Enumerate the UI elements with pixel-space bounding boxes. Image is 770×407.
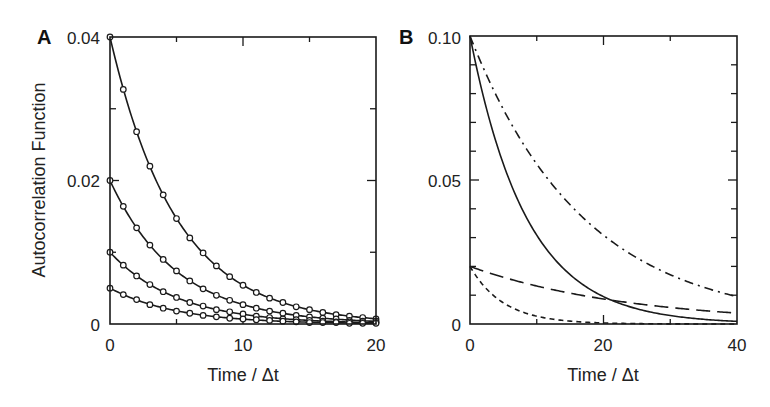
panel-b-ytick-zero: 0 [452, 316, 461, 335]
data-point-marker [214, 293, 220, 299]
data-point-marker [160, 257, 166, 263]
data-point-marker [200, 303, 206, 309]
data-point-marker [293, 304, 299, 310]
panel-b-letter: B [399, 26, 413, 48]
series-line-a0-0-02 [110, 181, 376, 322]
data-point-marker [187, 310, 193, 316]
data-point-marker [174, 295, 180, 301]
panel-a-frame [110, 37, 376, 324]
data-point-marker [187, 235, 193, 241]
data-point-marker [174, 308, 180, 314]
data-point-marker [147, 242, 153, 248]
data-point-marker [174, 268, 180, 274]
data-point-marker [160, 289, 166, 295]
series-line-solid [470, 36, 737, 321]
data-point-marker [227, 298, 233, 304]
panel-b-ytick-mid: 0.05 [428, 172, 461, 191]
panel-b-ytick-top: 0.10 [428, 29, 461, 48]
data-point-marker [280, 318, 286, 324]
data-point-marker [200, 286, 206, 292]
data-point-marker [240, 302, 246, 308]
data-point-marker [147, 282, 153, 288]
panel-b-xtick-40: 40 [728, 336, 747, 355]
panel-a-curves [107, 34, 379, 326]
data-point-marker [147, 302, 153, 308]
data-point-marker [227, 309, 233, 315]
y-axis-label: Autocorrelation Function [29, 82, 49, 277]
figure: A 0.04 0.02 0 0 10 20 Time / Δt Autocorr… [0, 0, 770, 407]
data-point-marker [307, 307, 313, 313]
data-point-marker [200, 313, 206, 319]
data-point-marker [121, 87, 127, 93]
data-point-marker [134, 297, 140, 303]
panel-a-xtick-10: 10 [234, 336, 253, 355]
panel-a: A 0.04 0.02 0 0 10 20 Time / Δt Autocorr… [29, 26, 385, 385]
data-point-marker [253, 290, 259, 296]
data-point-marker [227, 274, 233, 280]
panel-a-xtick-0: 0 [105, 336, 114, 355]
panel-a-ytick-top: 0.04 [67, 29, 100, 48]
series-line-a0-0-04 [110, 37, 376, 319]
data-point-marker [320, 310, 326, 316]
data-point-marker [280, 300, 286, 306]
data-point-marker [174, 216, 180, 222]
data-point-marker [227, 315, 233, 321]
data-point-marker [160, 305, 166, 311]
data-point-marker [267, 318, 273, 324]
data-point-marker [267, 295, 273, 301]
data-point-marker [187, 278, 193, 284]
data-point-marker [187, 300, 193, 306]
panel-b-xtick-20: 20 [594, 336, 613, 355]
data-point-marker [240, 316, 246, 322]
data-point-marker [253, 305, 259, 311]
data-point-marker [121, 292, 127, 298]
data-point-marker [280, 310, 286, 316]
panel-b-xtick-0: 0 [465, 336, 474, 355]
panel-a-xtick-20: 20 [367, 336, 386, 355]
panel-a-letter: A [37, 26, 51, 48]
data-point-marker [121, 204, 127, 210]
data-point-marker [253, 317, 259, 323]
panel-b-curves [470, 36, 737, 324]
data-point-marker [267, 308, 273, 314]
data-point-marker [214, 307, 220, 313]
data-point-marker [134, 129, 140, 135]
data-point-marker [160, 192, 166, 198]
data-point-marker [214, 263, 220, 269]
panel-a-x-axis-label: Time / Δt [207, 365, 278, 385]
data-point-marker [214, 314, 220, 320]
data-point-marker [240, 282, 246, 288]
panel-a-ytick-zero: 0 [91, 316, 100, 335]
data-point-marker [200, 250, 206, 256]
data-point-marker [134, 273, 140, 279]
series-line-dash-dot [470, 36, 737, 297]
panel-a-ytick-mid: 0.02 [67, 172, 100, 191]
data-point-marker [147, 163, 153, 169]
data-point-marker [134, 225, 140, 231]
data-point-marker [121, 262, 127, 268]
panel-b-x-axis-label: Time / Δt [567, 365, 638, 385]
panel-a-ticks [110, 37, 376, 324]
panel-b: B 0.10 0.05 0 0 20 40 Time / Δt [399, 26, 746, 385]
